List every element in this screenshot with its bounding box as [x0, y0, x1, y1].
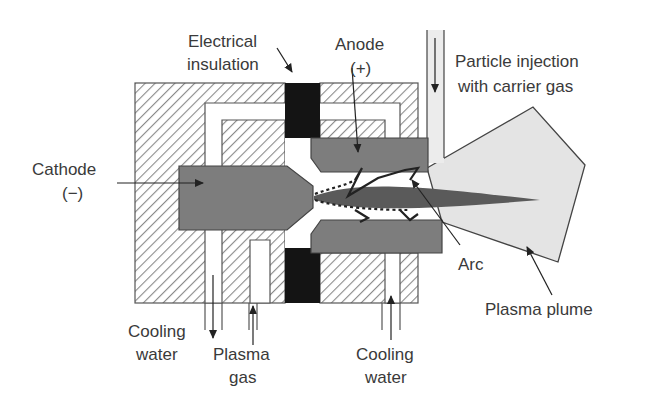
insulation-leader	[277, 48, 292, 72]
cathode	[179, 166, 313, 230]
label-anode: (+)	[350, 59, 371, 78]
insulation-bottom	[285, 248, 320, 303]
label-electrical-insulation: insulation	[187, 55, 259, 74]
plasma-plume	[427, 107, 585, 262]
plasma-torch-diagram: Electrical insulation Anode (+) Particle…	[0, 0, 647, 416]
label-cathode: Cathode	[32, 160, 96, 179]
label-particle-injection: Particle injection	[455, 52, 579, 71]
label-plasma-gas: Plasma	[213, 345, 270, 364]
label-cooling-water-left: water	[135, 345, 178, 364]
label-electrical-insulation: Electrical	[188, 32, 257, 51]
label-plasma-gas: gas	[229, 368, 256, 387]
label-anode: Anode	[335, 35, 384, 54]
label-cooling-water-right: Cooling	[356, 345, 414, 364]
particle-injection-tube	[427, 30, 444, 163]
label-cooling-water-right: water	[364, 368, 407, 387]
label-arc: Arc	[458, 255, 484, 274]
label-cooling-water-left: Cooling	[128, 322, 186, 341]
insulation-top	[285, 83, 320, 138]
label-cathode: (−)	[62, 184, 83, 203]
label-plasma-plume: Plasma plume	[485, 300, 593, 319]
label-particle-injection: with carrier gas	[457, 77, 573, 96]
